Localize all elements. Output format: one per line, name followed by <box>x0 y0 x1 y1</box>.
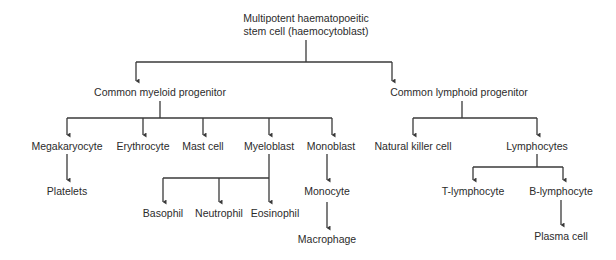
node-lymphocytes: Lymphocytes <box>506 140 567 153</box>
node-megakaryocyte: Megakaryocyte <box>31 140 102 153</box>
haematopoiesis-diagram: Multipotent haematopoeitic stem cell (ha… <box>0 0 616 260</box>
node-stem-cell-line1: Multipotent haematopoeitic <box>243 12 369 25</box>
node-t-lymphocyte: T-lymphocyte <box>442 185 504 198</box>
node-common-myeloid-progenitor: Common myeloid progenitor <box>94 86 226 99</box>
node-common-lymphoid-progenitor: Common lymphoid progenitor <box>390 86 528 99</box>
node-natural-killer-cell: Natural killer cell <box>374 140 451 153</box>
node-plasma-cell: Plasma cell <box>534 230 588 243</box>
node-mast-cell: Mast cell <box>182 140 223 153</box>
node-basophil: Basophil <box>143 207 183 220</box>
node-b-lymphocyte: B-lymphocyte <box>529 185 593 198</box>
node-erythrocyte: Erythrocyte <box>116 140 169 153</box>
node-monoblast: Monoblast <box>307 140 355 153</box>
connector-lines <box>0 0 616 260</box>
node-stem-cell: Multipotent haematopoeitic stem cell (ha… <box>243 12 369 38</box>
node-platelets: Platelets <box>47 185 87 198</box>
node-neutrophil: Neutrophil <box>195 207 243 220</box>
node-monocyte: Monocyte <box>304 185 350 198</box>
node-myeloblast: Myeloblast <box>244 140 294 153</box>
node-eosinophil: Eosinophil <box>251 207 299 220</box>
node-macrophage: Macrophage <box>298 233 356 246</box>
node-stem-cell-line2: stem cell (haemocytoblast) <box>243 25 369 38</box>
